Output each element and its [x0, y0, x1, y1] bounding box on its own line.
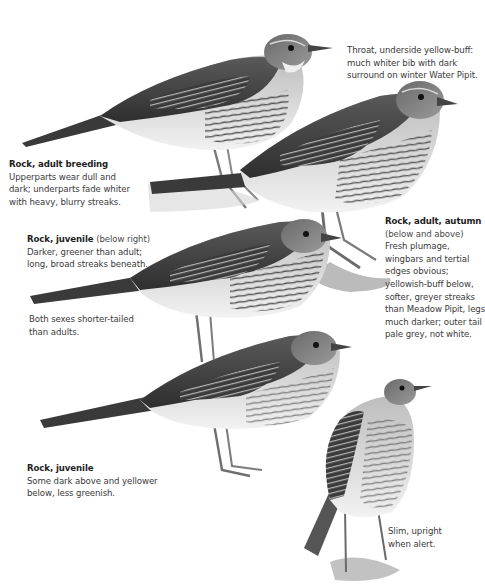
caption-line: softer, greyer streaks	[385, 291, 485, 304]
caption-line: than adults.	[29, 326, 134, 339]
caption-line: long, broad streaks beneath.	[27, 258, 150, 271]
adult-autumn-caption: Rock, adult, autumn (below and above) Fr…	[385, 215, 485, 341]
adult-breeding-caption: Rock, adult breeding Upperparts wear dul…	[9, 158, 130, 208]
caption-line: Upperparts wear dull and	[9, 171, 130, 184]
caption-line: wingbars and tertial	[385, 253, 485, 266]
caption-title-suffix: (below right)	[94, 234, 150, 244]
caption-title: Rock, juvenile	[27, 462, 158, 475]
caption-line: with heavy, blurry streaks.	[9, 196, 130, 209]
caption-line: when alert.	[388, 538, 442, 551]
caption-line: yellowish-buff below,	[385, 278, 485, 291]
juvenile-lower-caption: Rock, juvenile Some dark above and yello…	[27, 462, 158, 500]
juvenile-bird-lower	[40, 331, 352, 476]
caption-line: pale grey, not white.	[385, 328, 485, 341]
caption-line: Some dark above and yellower	[27, 475, 158, 488]
caption-title: Rock, juvenile	[27, 234, 94, 244]
caption-line: below, less greenish.	[27, 487, 158, 500]
throat-note-caption: Throat, underside yellow-buff: much whit…	[347, 44, 478, 82]
caption-line: dark; underparts fade whiter	[9, 183, 130, 196]
caption-line: Both sexes shorter-tailed	[29, 313, 134, 326]
caption-title: Rock, adult breeding	[9, 158, 130, 171]
upright-note-caption: Slim, upright when alert.	[388, 525, 442, 550]
caption-line: much darker; outer tail	[385, 316, 485, 329]
caption-line: edges obvious;	[385, 265, 485, 278]
caption-line: surround on winter Water Pipit.	[347, 69, 478, 82]
caption-title: Rock, adult, autumn	[385, 215, 485, 228]
caption-line: Slim, upright	[388, 525, 442, 538]
juvenile-right-caption: Rock, juvenile (below right) Darker, gre…	[27, 233, 150, 271]
caption-line: much whiter bib with dark	[347, 57, 478, 70]
caption-line: than Meadow Pipit, legs	[385, 303, 485, 316]
caption-line: Darker, greener than adult;	[27, 246, 150, 259]
upright-bird	[304, 379, 432, 581]
caption-line: Fresh plumage,	[385, 240, 485, 253]
caption-line: (below and above)	[385, 228, 485, 241]
caption-line: Throat, underside yellow-buff:	[347, 44, 478, 57]
sexes-note-caption: Both sexes shorter-tailed than adults.	[29, 313, 134, 338]
